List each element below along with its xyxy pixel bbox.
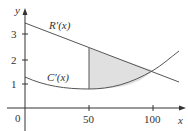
y-tick-label-3: 3 — [11, 28, 17, 40]
y-axis-arrow-icon — [23, 8, 28, 15]
x-tick-label-100: 100 — [144, 113, 161, 125]
y-tick-label-1: 1 — [11, 78, 17, 90]
c-prime-label: C′(x) — [47, 71, 69, 84]
y-axis-label: y — [14, 4, 20, 16]
y-tick-label-2: 2 — [11, 54, 17, 66]
x-tick-label-50: 50 — [83, 113, 95, 125]
origin-label: 0 — [15, 112, 21, 124]
x-axis-label: x — [177, 114, 183, 126]
x-axis-arrow-icon — [179, 106, 186, 111]
r-prime-label: R′(x) — [48, 19, 71, 32]
marginal-revenue-cost-chart: y x 3 2 1 0 50 100 R′(x) C′(x) — [0, 0, 188, 131]
